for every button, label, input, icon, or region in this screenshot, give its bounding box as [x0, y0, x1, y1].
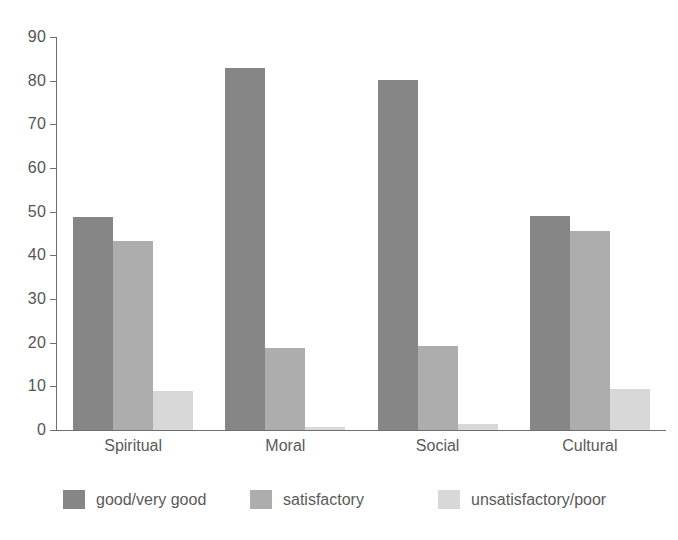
y-tick-label: 60 — [0, 160, 46, 176]
bar — [113, 241, 153, 431]
y-tick-label: 90 — [0, 29, 46, 45]
y-axis-line — [56, 37, 57, 431]
bar-group — [225, 37, 345, 430]
y-tick-label-text: 60 — [4, 160, 46, 176]
y-tick-mark — [50, 212, 57, 213]
y-tick-label: 10 — [0, 378, 46, 394]
y-tick-label-text: 80 — [4, 73, 46, 89]
x-axis-label-moral: Moral — [209, 437, 361, 455]
bar — [610, 389, 650, 430]
y-tick-label-text: 90 — [4, 29, 46, 45]
bar — [305, 427, 345, 430]
y-tick-mark — [50, 37, 57, 38]
y-tick-mark — [50, 299, 57, 300]
y-tick-label-text: 10 — [4, 378, 46, 394]
y-tick-mark — [50, 255, 57, 256]
legend-item[interactable]: good/very good — [63, 488, 206, 510]
x-axis-label-cultural: Cultural — [514, 437, 666, 455]
legend-swatch-icon — [63, 490, 85, 509]
legend-label: satisfactory — [283, 490, 364, 509]
legend-item[interactable]: satisfactory — [250, 488, 364, 510]
y-tick-label: 80 — [0, 73, 46, 89]
y-tick-label: 40 — [0, 247, 46, 263]
bar — [458, 424, 498, 430]
x-axis-label-spiritual: Spiritual — [57, 437, 209, 455]
y-tick-label: 70 — [0, 116, 46, 132]
y-tick-mark — [50, 343, 57, 344]
y-tick-label: 30 — [0, 291, 46, 307]
y-tick-label: 20 — [0, 335, 46, 351]
y-tick-mark — [50, 168, 57, 169]
y-tick-label-text: 30 — [4, 291, 46, 307]
bar-group — [530, 37, 650, 430]
y-tick-label: 50 — [0, 204, 46, 220]
y-tick-label-text: 40 — [4, 247, 46, 263]
chart-legend: good/very goodsatisfactoryunsatisfactory… — [56, 488, 668, 518]
x-axis-label-social: Social — [362, 437, 514, 455]
y-tick-label-text: 20 — [4, 335, 46, 351]
y-tick-mark — [50, 430, 57, 431]
bar — [418, 346, 458, 430]
legend-swatch-icon — [250, 490, 272, 509]
y-tick-label-text: 50 — [4, 204, 46, 220]
legend-item[interactable]: unsatisfactory/poor — [438, 488, 606, 510]
y-tick-mark — [50, 124, 57, 125]
bar — [265, 348, 305, 430]
y-tick-label: 0 — [0, 422, 46, 438]
y-tick-mark — [50, 386, 57, 387]
bar — [73, 217, 113, 430]
bar-group — [378, 37, 498, 430]
y-tick-label-text: 0 — [4, 422, 46, 438]
legend-label: good/very good — [96, 490, 206, 509]
bar-group — [73, 37, 193, 430]
legend-swatch-icon — [438, 490, 460, 509]
legend-label: unsatisfactory/poor — [471, 490, 606, 509]
y-tick-mark — [50, 81, 57, 82]
y-tick-label-text: 70 — [4, 116, 46, 132]
bar — [225, 68, 265, 430]
bar — [378, 80, 418, 430]
bar — [153, 391, 193, 430]
bar — [570, 231, 610, 430]
bar — [530, 216, 570, 430]
bar-chart: 0102030405060708090 SpiritualMoralSocial… — [0, 0, 678, 540]
x-axis-line — [56, 430, 666, 431]
